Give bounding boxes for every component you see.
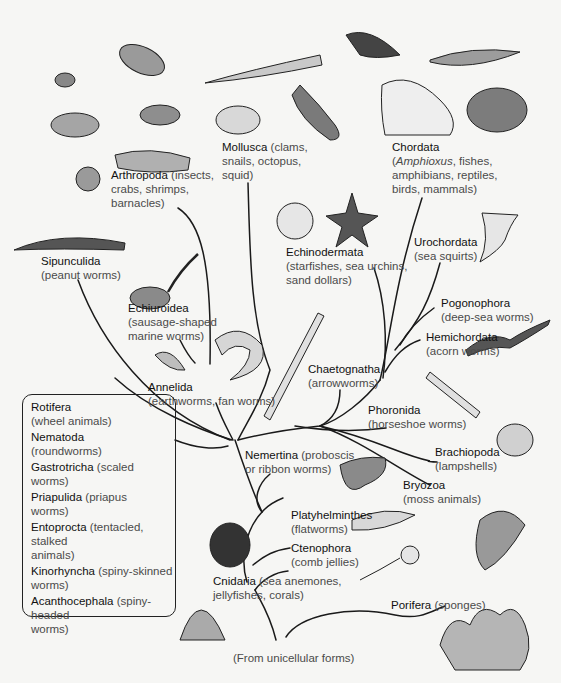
fly-illustration — [140, 105, 180, 125]
label-pogonophora: Pogonophora (deep-sea worms) — [441, 296, 534, 324]
earthworm-illustration — [215, 331, 263, 380]
bug-illustration — [55, 73, 75, 87]
lampshell-illustration — [497, 424, 533, 456]
label-chordata: Chordata (Amphioxus, fishes, amphibians,… — [392, 140, 497, 196]
starfish-illustration — [326, 193, 378, 247]
label-ctenophora: Ctenophora (comb jellies) — [291, 541, 359, 569]
label-brachiopoda: Brachiopoda (lampshells) — [435, 445, 500, 473]
box-entry-gastrotricha: Gastrotricha (scaled worms) — [31, 460, 175, 488]
bird-illustration — [346, 33, 400, 58]
label-platyhelminthes: Platyhelminthes (flatworms) — [291, 508, 372, 536]
box-entry-nematoda: Nematoda (roundworms) — [31, 430, 175, 458]
branch-box — [175, 440, 228, 448]
sand-dollar-illustration — [277, 203, 313, 239]
label-arthropoda: Arthropoda (insects, crabs, shrimps, bar… — [111, 168, 214, 210]
label-urochordata: Urochordata (sea squirts) — [414, 235, 477, 263]
label-hemichordata: Hemichordata (acorn worms) — [426, 330, 499, 358]
box-entry-rotifera: Rotifera (wheel animals) — [31, 400, 175, 428]
label-porifera: Porifera (sponges) — [391, 598, 486, 612]
label-mollusca: Mollusca (clams, snails, octopus, squid) — [222, 140, 308, 182]
comb-jelly-tentacle — [360, 558, 400, 580]
barnacle-illustration — [76, 167, 100, 191]
label-bryozoa: Bryozoa (moss animals) — [403, 478, 481, 506]
comb-jelly-illustration — [401, 546, 419, 564]
label-nemertina: Nemertina (proboscis or ribbon worms) — [245, 448, 354, 476]
branch-hemichordata — [385, 340, 420, 372]
branch-chaetognatha — [320, 390, 340, 426]
label-root: (From unicellular forms) — [233, 651, 354, 665]
fish-illustration — [430, 50, 520, 66]
sponge-illustration — [440, 609, 529, 670]
box-entry-priapulida: Priapulida (priapus worms) — [31, 490, 175, 518]
box-entry-acanthocephala: Acanthocephala (spiny-headed worms) — [31, 594, 175, 636]
sea-squirt-illustration — [480, 213, 518, 262]
branch-chordata — [380, 198, 422, 380]
peanut-worm-illustration — [14, 238, 125, 250]
clam-illustration — [216, 106, 260, 134]
label-cnidaria: Cnidaria (sea anemones, jellyfishes, cor… — [213, 574, 342, 602]
squid-illustration — [205, 55, 322, 83]
phylogeny-diagram: Arthropoda (insects, crabs, shrimps, bar… — [0, 0, 561, 683]
fox-illustration — [381, 80, 453, 135]
branch-echiuroidea — [180, 340, 195, 363]
sea-anemone-illustration — [180, 610, 225, 640]
jellyfish-illustration — [210, 523, 250, 567]
label-sipunculida: Sipunculida (peanut worms) — [41, 254, 121, 282]
crab-illustration — [51, 113, 99, 137]
label-phoronida: Phoronida (horseshoe worms) — [368, 403, 466, 431]
sausage-worm-tail — [168, 254, 198, 292]
fan-worm-illustration — [155, 352, 185, 370]
moss-animal-illustration — [476, 511, 525, 570]
branch-platyhelminthes — [253, 548, 290, 565]
box-entry-kinorhyncha: Kinorhyncha (spiny-skinned worms) — [31, 564, 175, 592]
beetle-illustration — [115, 38, 169, 82]
label-chaetognatha: Chaetognatha (arrowworms) — [308, 362, 380, 390]
pseudocoelomate-box: Rotifera (wheel animals) Nematoda (round… — [22, 394, 176, 617]
label-echinodermata: Echinodermata (starfishes, sea urchins, … — [286, 245, 407, 287]
frog-illustration — [467, 88, 527, 132]
label-echiuroidea: Echiuroidea (sausage-shaped marine worms… — [128, 301, 217, 343]
box-entry-entoprocta: Entoprocta (tentacled, stalked animals) — [31, 520, 175, 562]
branch-annelida — [216, 403, 233, 440]
snail-illustration — [292, 85, 339, 140]
